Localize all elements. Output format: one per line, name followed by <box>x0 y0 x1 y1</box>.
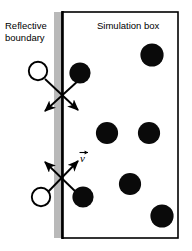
particle-incoming-top <box>69 62 90 83</box>
particle-mid-left <box>96 122 118 144</box>
particle-top-right <box>140 43 163 66</box>
particle-mid-right <box>138 122 160 144</box>
particle-incoming-bottom <box>72 186 93 207</box>
reflective-boundary-label-line1: Reflective <box>5 20 47 32</box>
particle-bottom-right <box>150 204 173 227</box>
reflective-boundary-label-line2: boundary <box>5 32 47 44</box>
velocity-vector-label: v <box>80 152 85 164</box>
simulation-box-label: Simulation box <box>97 20 159 32</box>
particle-lower-mid <box>119 173 141 195</box>
ghost-particle-top <box>29 62 47 80</box>
simulation-box-diagram: Reflective boundary Simulation box v <box>0 0 192 251</box>
reflective-boundary-label: Reflective boundary <box>5 20 47 43</box>
ghost-particle-bottom <box>32 188 50 206</box>
